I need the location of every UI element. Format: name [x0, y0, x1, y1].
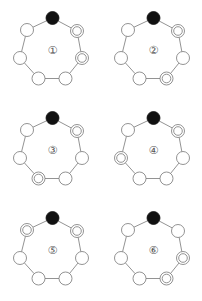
- plain-node: [160, 172, 173, 185]
- black-node: [46, 12, 59, 25]
- diagram-panel-3: ③: [0, 100, 101, 200]
- ring-edge: [159, 221, 172, 228]
- double-ring-node: [115, 152, 128, 165]
- plain-node: [122, 24, 135, 37]
- diagram-panel-5: ⑤: [0, 200, 101, 300]
- plain-node: [21, 24, 34, 37]
- plain-node: [122, 224, 135, 237]
- double-ring-node: [71, 25, 84, 38]
- plain-node: [115, 252, 128, 265]
- panel-number-label: ④: [147, 144, 160, 157]
- plain-node: [76, 152, 89, 165]
- double-ring-node: [160, 72, 173, 85]
- plain-node: [115, 52, 128, 65]
- ring-edge: [70, 163, 78, 173]
- ring-edge: [33, 21, 47, 27]
- ring-edge: [70, 263, 78, 273]
- plain-node: [76, 252, 89, 265]
- plain-node: [21, 124, 34, 137]
- ring-edge: [171, 263, 179, 273]
- plain-node: [14, 52, 27, 65]
- ring-edge: [78, 237, 81, 251]
- diagram-panel-2: ②: [101, 0, 202, 100]
- black-node: [46, 212, 59, 225]
- ring-edge: [22, 136, 26, 151]
- plain-node: [59, 172, 72, 185]
- ring-edge: [33, 121, 47, 127]
- ring-edge: [24, 163, 34, 174]
- diagram-panel-1: ①: [0, 0, 101, 100]
- ring-edge: [159, 121, 172, 128]
- double-ring-node: [71, 125, 84, 138]
- diagram-panel-4: ④: [101, 100, 202, 200]
- ring-edge: [123, 36, 127, 51]
- double-ring-node: [76, 52, 89, 65]
- ring-edge: [134, 221, 148, 227]
- ring-edge: [179, 237, 182, 251]
- ring-edge: [22, 236, 26, 251]
- ring-edge: [179, 37, 182, 51]
- ring-edge: [159, 21, 172, 28]
- double-ring-node: [177, 252, 190, 265]
- ring-edge: [134, 21, 148, 27]
- diagram-panel-6: ⑥: [101, 200, 202, 300]
- panel-number-label: ②: [147, 44, 160, 57]
- black-node: [147, 212, 160, 225]
- ring-edge: [58, 221, 71, 228]
- double-ring-node: [21, 224, 34, 237]
- plain-node: [32, 72, 45, 85]
- black-node: [147, 12, 160, 25]
- ring-edge: [33, 221, 47, 227]
- plain-node: [133, 172, 146, 185]
- ring-edge: [58, 21, 71, 28]
- plain-node: [133, 72, 146, 85]
- ring-edge: [123, 236, 127, 251]
- double-ring-node: [172, 25, 185, 38]
- plain-node: [177, 152, 190, 165]
- ring-edge: [24, 263, 34, 274]
- plain-node: [122, 124, 135, 137]
- plain-node: [133, 272, 146, 285]
- ring-edge: [123, 136, 127, 151]
- ring-edge: [125, 163, 135, 174]
- ring-edge: [78, 137, 81, 151]
- double-ring-node: [32, 172, 45, 185]
- ring-edge: [24, 63, 34, 74]
- ring-edge: [58, 121, 71, 128]
- plain-node: [14, 152, 27, 165]
- black-node: [46, 112, 59, 125]
- panel-number-label: ⑥: [147, 244, 160, 257]
- ring-edge: [22, 36, 26, 51]
- ring-edge: [125, 263, 135, 274]
- plain-node: [59, 72, 72, 85]
- double-ring-node: [71, 225, 84, 238]
- black-node: [147, 112, 160, 125]
- panel-number-label: ⑤: [46, 244, 59, 257]
- ring-edge: [171, 163, 179, 173]
- panel-number-label: ①: [46, 44, 59, 57]
- ring-edge: [78, 37, 81, 51]
- plain-node: [177, 52, 190, 65]
- plain-node: [32, 272, 45, 285]
- ring-edge: [70, 63, 78, 73]
- ring-edge: [125, 63, 135, 74]
- panel-number-label: ③: [46, 144, 59, 157]
- ring-edge: [134, 121, 148, 127]
- double-ring-node: [172, 125, 185, 138]
- plain-node: [14, 252, 27, 265]
- ring-edge: [179, 137, 182, 151]
- plain-node: [172, 225, 185, 238]
- ring-edge: [171, 63, 179, 73]
- double-ring-node: [160, 272, 173, 285]
- plain-node: [59, 272, 72, 285]
